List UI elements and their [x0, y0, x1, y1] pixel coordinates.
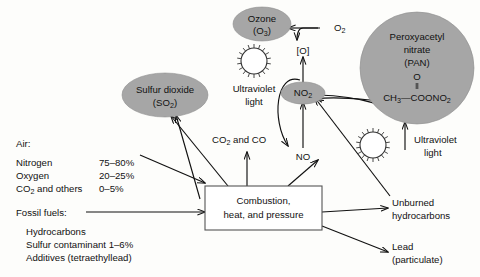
air-row-nitrogen-name: Nitrogen	[16, 157, 52, 168]
fuel-item-sulfur: Sulfur contaminant 1–6%	[26, 239, 134, 250]
uv-label-right-line1: Ultraviolet	[414, 134, 457, 145]
fuel-item-hydrocarbons: Hydrocarbons	[26, 226, 86, 237]
sulfur-dioxide-name: Sulfur dioxide	[136, 84, 194, 95]
sun-icon-left	[237, 44, 271, 78]
atomic-oxygen-label: [O]	[297, 45, 310, 56]
arrow-box-to-unburned	[322, 208, 388, 212]
arrow-box-to-no	[288, 160, 318, 186]
lead-line2: (particulate)	[392, 254, 443, 265]
combustion-box[interactable]: Combustion, heat, and pressure	[205, 186, 322, 230]
sulfur-dioxide-node[interactable]: Sulfur dioxide (SO2)	[122, 73, 208, 117]
arrow-o2-to-ozone	[297, 28, 320, 40]
unburned-hydrocarbons-line2: hydrocarbons	[392, 210, 450, 221]
combustion-box-line1: Combustion,	[237, 195, 291, 206]
unburned-hydrocarbons-line1: Unburned	[392, 197, 434, 208]
arrow-air-values-to-so2	[176, 115, 200, 199]
pan-carbonyl-oxygen: O	[413, 71, 420, 82]
uv-label-left-line2: light	[245, 96, 263, 107]
fuel-item-additives: Additives (tetraethyllead)	[26, 252, 132, 263]
co2-and-co-label: CO2 and CO	[212, 134, 266, 147]
lead-line1: Lead	[392, 241, 413, 252]
smog-formation-diagram: Combustion, heat, and pressure Sulfur di…	[0, 0, 480, 277]
pan-double-bond-icon	[416, 83, 419, 89]
sun-icon-right	[356, 128, 390, 162]
air-row-oxygen-name: Oxygen	[16, 170, 49, 181]
arrow-air-to-box	[140, 155, 205, 183]
ozone-name: Ozone	[248, 13, 276, 24]
fossil-fuels-heading: Fossil fuels:	[16, 207, 67, 218]
ozone-node[interactable]: Ozone (O3)	[233, 7, 291, 41]
uv-label-right-line2: light	[424, 147, 442, 158]
pan-node[interactable]: Peroxyacetyl nitrate (PAN) O CH3—COONO2	[360, 12, 474, 124]
air-heading: Air:	[16, 138, 30, 149]
oxygen-molecule-label: O2	[334, 22, 345, 35]
uv-label-left-line1: Ultraviolet	[233, 83, 276, 94]
air-row-co2-value: 0–5%	[99, 183, 124, 194]
arrow-box-to-lead	[322, 226, 388, 252]
pan-line2: nitrate	[404, 44, 431, 55]
pan-line1: Peroxyacetyl	[390, 31, 445, 42]
air-row-co2-name: CO2 and others	[16, 183, 83, 196]
nitrogen-dioxide-node[interactable]: NO2	[281, 82, 325, 104]
combustion-box-line2: heat, and pressure	[223, 209, 303, 220]
pan-line3: (PAN)	[404, 57, 429, 68]
diagram-canvas: Combustion, heat, and pressure Sulfur di…	[0, 0, 480, 277]
nitric-oxide-label: NO	[296, 151, 310, 162]
air-row-nitrogen-value: 75–80%	[99, 157, 135, 168]
air-row-oxygen-value: 20–25%	[99, 170, 135, 181]
